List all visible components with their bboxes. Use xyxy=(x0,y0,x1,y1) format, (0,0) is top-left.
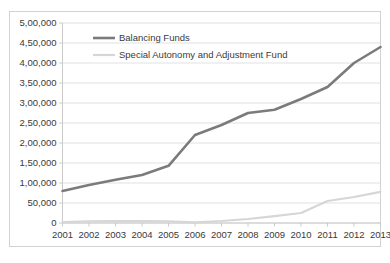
series-line-special-autonomy-and-adjustment-fund xyxy=(63,192,381,223)
y-tick-label: 4,00,000 xyxy=(20,57,57,68)
series-line-balancing-funds xyxy=(63,47,381,191)
x-axis: 2001200220032004200520062007200820092010… xyxy=(52,223,390,240)
y-tick-label: 0 xyxy=(51,217,56,228)
x-tick-label: 2002 xyxy=(78,229,99,240)
legend-label-1: Balancing Funds xyxy=(119,32,190,43)
y-tick-label: 2,50,000 xyxy=(20,117,57,128)
series-lines xyxy=(63,47,381,222)
y-tick-label: 4,50,000 xyxy=(20,37,57,48)
x-tick-label: 2009 xyxy=(264,229,285,240)
y-tick-label: 50,000 xyxy=(27,197,56,208)
x-tick-label: 2013 xyxy=(370,229,390,240)
x-tick-label: 2010 xyxy=(290,229,311,240)
chart-legend: Balancing FundsSpecial Autonomy and Adju… xyxy=(93,32,287,60)
x-tick-label: 2012 xyxy=(343,229,364,240)
y-tick-label: 1,00,000 xyxy=(20,177,57,188)
y-tick-label: 1,50,000 xyxy=(20,157,57,168)
x-tick-label: 2005 xyxy=(158,229,179,240)
x-tick-label: 2001 xyxy=(52,229,73,240)
y-tick-label: 2,00,000 xyxy=(20,137,57,148)
x-tick-label: 2008 xyxy=(237,229,258,240)
line-chart: 050,0001,00,0001,50,0002,00,0002,50,0003… xyxy=(0,0,390,263)
x-tick-label: 2004 xyxy=(131,229,152,240)
legend-label-2: Special Autonomy and Adjustment Fund xyxy=(119,49,287,60)
y-tick-label: 3,00,000 xyxy=(20,97,57,108)
y-tick-label: 3,50,000 xyxy=(20,77,57,88)
x-tick-label: 2003 xyxy=(105,229,126,240)
y-axis: 050,0001,00,0001,50,0002,00,0002,50,0003… xyxy=(20,17,63,228)
x-tick-label: 2006 xyxy=(184,229,205,240)
y-tick-label: 5,00,000 xyxy=(20,17,57,28)
x-tick-label: 2007 xyxy=(211,229,232,240)
x-tick-label: 2011 xyxy=(317,229,337,240)
